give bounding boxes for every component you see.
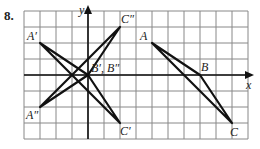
y-axis-arrow-icon (84, 5, 92, 14)
label-C-double-prime: C″ (121, 12, 135, 26)
coordinate-grid-figure: xyABCA′C′C″A″B′, B″ (0, 0, 260, 149)
y-axis-label: y (78, 3, 85, 17)
label-A: A (139, 29, 148, 43)
label-A-prime: A′ (26, 29, 37, 43)
label-C: C (230, 125, 239, 139)
triangle-A1B1C1 (40, 43, 120, 123)
label-B: B (201, 60, 209, 74)
triangle-ABC (152, 43, 232, 123)
label-B-prime-B-double-prime: B′, B″ (91, 61, 120, 75)
x-axis-label: x (245, 78, 252, 92)
label-A-double-prime: A″ (25, 108, 39, 122)
label-C-prime: C′ (120, 124, 131, 138)
